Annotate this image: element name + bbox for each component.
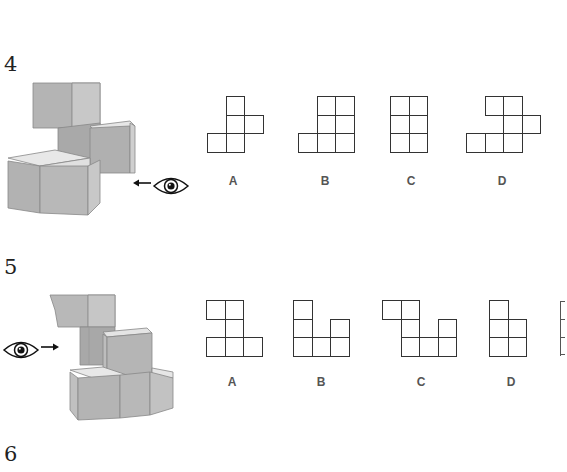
cube-figure-4 xyxy=(0,78,140,218)
option-label: A xyxy=(222,375,242,389)
grid-cell xyxy=(226,115,246,135)
grid-cell xyxy=(390,96,410,116)
grid-cell xyxy=(293,319,313,339)
grid-cell xyxy=(226,133,246,153)
grid-cell xyxy=(419,337,439,357)
grid-cell xyxy=(225,337,245,357)
grid-cell xyxy=(409,96,429,116)
grid-cell xyxy=(438,337,458,357)
grid-cell xyxy=(489,300,509,320)
grid-cell xyxy=(225,300,245,320)
eye-icon xyxy=(3,339,39,361)
problem-number: 5 xyxy=(4,255,17,279)
grid-cell xyxy=(335,96,355,116)
grid-cell xyxy=(390,133,410,153)
cube-figure-5 xyxy=(45,290,185,430)
grid-cell xyxy=(317,115,337,135)
grid-cell xyxy=(244,115,264,135)
option-label: B xyxy=(311,375,331,389)
option-label: B xyxy=(315,174,335,188)
grid-cell xyxy=(485,96,505,116)
grid-cell xyxy=(503,115,523,135)
problem-number: 4 xyxy=(4,52,17,76)
grid-cell xyxy=(317,96,337,116)
grid-cell xyxy=(243,337,263,357)
option-grid-partial xyxy=(560,301,567,356)
grid-cell xyxy=(409,115,429,135)
grid-cell xyxy=(335,115,355,135)
grid-cell xyxy=(485,133,505,153)
grid-cell xyxy=(330,337,350,357)
grid-cell xyxy=(489,337,509,357)
grid-cell xyxy=(206,300,226,320)
grid-cell xyxy=(206,337,226,357)
grid-cell xyxy=(503,133,523,153)
grid-cell xyxy=(317,133,337,153)
grid-cell xyxy=(312,337,332,357)
grid-cell xyxy=(298,133,318,153)
grid-cell xyxy=(225,319,245,339)
grid-cell xyxy=(508,337,528,357)
grid-cell xyxy=(335,133,355,153)
grid-cell xyxy=(489,319,509,339)
grid-cell xyxy=(390,115,410,135)
eye-icon xyxy=(153,175,189,197)
grid-cell xyxy=(401,319,421,339)
grid-cell xyxy=(503,96,523,116)
grid-cell xyxy=(401,337,421,357)
grid-cell xyxy=(293,337,313,357)
arrow-left-icon xyxy=(133,178,153,188)
grid-cell xyxy=(382,300,402,320)
option-label: A xyxy=(223,174,243,188)
option-label: D xyxy=(492,174,512,188)
option-label: C xyxy=(401,174,421,188)
grid-cell xyxy=(522,115,542,135)
problem-number: 6 xyxy=(4,442,17,466)
grid-cell xyxy=(330,319,350,339)
grid-cell xyxy=(226,96,246,116)
grid-cell xyxy=(207,133,227,153)
grid-cell xyxy=(508,319,528,339)
option-label: C xyxy=(411,375,431,389)
option-label: D xyxy=(501,375,521,389)
grid-cell xyxy=(293,300,313,320)
grid-cell xyxy=(401,300,421,320)
grid-cell xyxy=(466,133,486,153)
grid-cell xyxy=(409,133,429,153)
grid-cell xyxy=(438,319,458,339)
